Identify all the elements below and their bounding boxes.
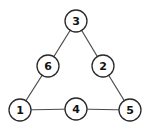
node-label: 1: [16, 104, 24, 117]
node-4: 4: [65, 98, 87, 120]
triangle-graph-diagram: 3 6 2 1 4 5: [0, 0, 151, 134]
node-label: 3: [72, 15, 80, 28]
node-label: 5: [126, 104, 134, 117]
node-6: 6: [37, 55, 59, 77]
node-label: 6: [44, 60, 52, 73]
node-3: 3: [65, 10, 87, 32]
node-label: 4: [72, 103, 80, 116]
node-1: 1: [9, 99, 31, 121]
node-2: 2: [92, 55, 114, 77]
node-5: 5: [119, 99, 141, 121]
node-label: 2: [99, 60, 107, 73]
